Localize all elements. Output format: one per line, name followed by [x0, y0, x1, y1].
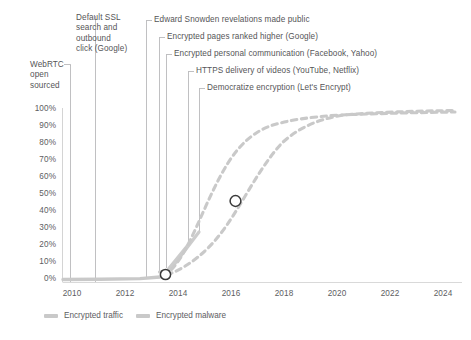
x-tick-2020: 2020: [317, 289, 357, 298]
y-tick-10: 10%: [22, 257, 56, 266]
data-marker-2: [230, 196, 241, 207]
annotation-webrtc: WebRTC open sourced: [30, 60, 70, 91]
annotation-webrtc-line1: WebRTC: [30, 60, 70, 70]
y-tick-60: 60%: [22, 172, 56, 181]
leader-line-personal-comm: [166, 55, 172, 269]
legend-item-encrypted-traffic[interactable]: Encrypted traffic: [44, 311, 123, 320]
x-tick-2016: 2016: [211, 289, 251, 298]
y-tick-0: 0%: [22, 274, 56, 283]
chart-legend: Encrypted traffic Encrypted malware: [44, 311, 226, 320]
y-tick-40: 40%: [22, 206, 56, 215]
event-pointer-strokes: [160, 232, 200, 272]
annotation-snowden: Edward Snowden revelations made public: [154, 15, 310, 25]
leader-line-snowden: [146, 21, 152, 279]
annotation-ssl-line2: search and: [76, 23, 138, 33]
annotation-ssl-line3: outbound: [76, 34, 138, 44]
series-line-encrypted-traffic: [164, 112, 455, 276]
annotation-personal-comm: Encrypted personal communication (Facebo…: [174, 49, 377, 59]
annotation-ranked-higher: Encrypted pages ranked higher (Google): [167, 32, 318, 42]
x-tick-2010: 2010: [52, 289, 92, 298]
x-tick-2018: 2018: [264, 289, 304, 298]
chart-container: WebRTC open sourced Default SSL search a…: [0, 0, 471, 340]
annotation-ssl-line4: click (Google): [76, 44, 138, 54]
annotation-default-ssl: Default SSL search and outbound click (G…: [76, 13, 138, 54]
annotation-webrtc-line2: open: [30, 70, 70, 80]
annotation-democratize: Democratize encryption (Let's Encrypt): [207, 83, 351, 93]
x-tick-2022: 2022: [370, 289, 410, 298]
legend-item-encrypted-malware[interactable]: Encrypted malware: [136, 311, 226, 320]
x-tick-2024: 2024: [423, 289, 463, 298]
annotation-webrtc-line3: sourced: [30, 81, 70, 91]
leader-line-ranked-higher: [159, 38, 165, 273]
legend-label-encrypted-malware: Encrypted malware: [156, 311, 226, 320]
y-tick-100: 100%: [22, 104, 56, 113]
y-tick-80: 80%: [22, 138, 56, 147]
y-tick-50: 50%: [22, 189, 56, 198]
legend-swatch-icon-encrypted-traffic: [44, 314, 58, 318]
y-tick-20: 20%: [22, 240, 56, 249]
annotation-ssl-line1: Default SSL: [76, 13, 138, 23]
leader-line-webrtc: [64, 65, 71, 283]
y-tick-70: 70%: [22, 155, 56, 164]
series-line-encrypted-malware: [167, 111, 455, 276]
legend-label-encrypted-traffic: Encrypted traffic: [64, 311, 123, 320]
y-tick-90: 90%: [22, 121, 56, 130]
annotation-https-videos: HTTPS delivery of videos (YouTube, Netfl…: [196, 66, 359, 76]
y-tick-30: 30%: [22, 223, 56, 232]
series-line-encrypted-traffic-base: [63, 277, 160, 280]
x-tick-2014: 2014: [158, 289, 198, 298]
x-tick-2012: 2012: [105, 289, 145, 298]
leader-line-https-videos: [188, 72, 194, 246]
legend-swatch-icon-encrypted-malware: [136, 314, 150, 318]
data-marker-1: [160, 269, 170, 279]
leader-line-democratize: [199, 89, 205, 233]
